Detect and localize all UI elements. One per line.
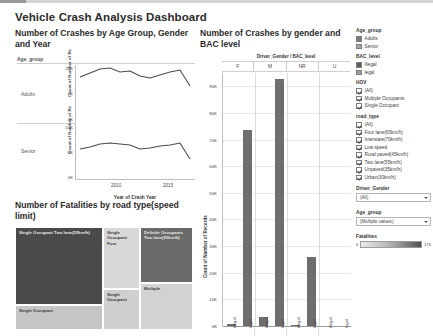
bar-chart-column-header-title: Driver_Gender / BAC_level bbox=[222, 54, 350, 59]
line-chart-plot-senior[interactable] bbox=[75, 123, 195, 180]
line-chart-facet-header: Age_group bbox=[17, 56, 43, 62]
filter-item-label: Rural paved(45km/h) bbox=[365, 152, 409, 157]
bar-chart-column-headers: F M NR U bbox=[222, 61, 350, 72]
filter-item-label: Low speed bbox=[365, 145, 388, 150]
fatalities-max-label: 176 bbox=[424, 242, 431, 247]
filter-road-type-title: road_type bbox=[356, 114, 431, 119]
legend-item-adults[interactable]: Adults bbox=[356, 35, 431, 43]
line-chart-ytick-senior-mid: 0K bbox=[68, 150, 73, 155]
bar-chart-group-separator bbox=[319, 73, 320, 326]
legend-item-label: Adults bbox=[365, 36, 378, 41]
checkbox-icon[interactable] bbox=[356, 103, 362, 109]
line-chart-plot-adults[interactable] bbox=[75, 65, 195, 122]
bar-chart-xaxis-group-separator bbox=[286, 328, 287, 336]
checkbox-icon[interactable] bbox=[356, 175, 362, 181]
filter-item-label: Single Occupant bbox=[365, 103, 399, 108]
legend-item-senior[interactable]: Senior bbox=[356, 43, 431, 51]
filter-age-group-select: Age_group (Multiple values) bbox=[356, 210, 431, 226]
treemap-cell[interactable]: Multiple bbox=[140, 283, 193, 330]
filter-driver-gender-title: Driver_Gender bbox=[356, 186, 431, 191]
tab-stub[interactable] bbox=[0, 0, 26, 3]
bar-chart-panel: Number of Crashes by gender and BAC leve… bbox=[200, 28, 352, 333]
bar-chart-group-separator bbox=[255, 73, 256, 326]
driver-gender-dropdown[interactable]: (All) bbox=[356, 193, 431, 202]
line-chart-ytick-adults-20k: 20K bbox=[65, 66, 73, 71]
chevron-down-icon[interactable] bbox=[424, 197, 428, 199]
filter-road-type-item-four-lane[interactable]: Four lane(65km/h) bbox=[356, 129, 431, 137]
treemap-cell[interactable]: Single Occupant Four bbox=[103, 227, 140, 289]
filter-road-type-item-urban[interactable]: Urban(30km/h) bbox=[356, 174, 431, 182]
filter-road-type-item-rural-paved[interactable]: Rural paved(45km/h) bbox=[356, 151, 431, 159]
bar-chart-ytick: 40K bbox=[200, 217, 217, 222]
line-chart-title: Number of Crashes by Age Group, Gender a… bbox=[15, 28, 195, 50]
bar-chart-group-header-nr: NR bbox=[287, 62, 319, 71]
dashboard-root: Vehicle Crash Analysis Dashboard Number … bbox=[0, 0, 433, 336]
checkbox-icon[interactable] bbox=[356, 152, 362, 158]
checkbox-icon[interactable] bbox=[356, 88, 362, 94]
gradient-ramp-icon bbox=[360, 241, 422, 248]
filter-fatalities-legend: Fatalities 5 176 bbox=[356, 234, 431, 248]
checkbox-icon[interactable] bbox=[356, 130, 362, 136]
treemap-canvas: Single Occupant Two lane(55km/h) Single … bbox=[15, 227, 193, 330]
color-swatch-icon bbox=[356, 62, 362, 68]
bar-chart-ytick: 70K bbox=[200, 137, 217, 142]
filter-road-type-item-two-lane[interactable]: Two lane(55km/h) bbox=[356, 159, 431, 167]
age-group-dropdown[interactable]: (Multiple values) bbox=[356, 217, 431, 226]
bar-chart-group-header-m: M bbox=[254, 62, 286, 71]
bar-chart-bar[interactable] bbox=[307, 257, 316, 326]
treemap-cell[interactable]: Single Occupant Two lane(55km/h) bbox=[15, 227, 103, 305]
bar-chart-bar[interactable] bbox=[275, 79, 284, 326]
checkbox-icon[interactable] bbox=[356, 137, 362, 143]
treemap-cell[interactable]: Single Occupant bbox=[103, 289, 140, 330]
filter-item-label: (All) bbox=[365, 122, 373, 127]
driver-gender-value: (All) bbox=[360, 195, 368, 200]
checkbox-icon[interactable] bbox=[356, 96, 362, 102]
filter-road-type-item-unpaved[interactable]: Unpaved(35km/h) bbox=[356, 166, 431, 174]
chevron-down-icon[interactable] bbox=[424, 221, 428, 223]
filter-hov-item-multiple-occupants[interactable]: Multiple Occupants bbox=[356, 95, 431, 103]
filter-hov-item-all[interactable]: (All) bbox=[356, 87, 431, 95]
filter-road-type-item-low-speed[interactable]: Low speed bbox=[356, 144, 431, 152]
checkbox-icon[interactable] bbox=[356, 122, 362, 128]
checkbox-icon[interactable] bbox=[356, 145, 362, 151]
bar-chart-ytick: 0K bbox=[200, 324, 217, 329]
bar-chart-xaxis-group-separator bbox=[318, 328, 319, 336]
bar-chart-xtick: illegal bbox=[264, 317, 269, 328]
filter-item-label: Two lane(55km/h) bbox=[365, 160, 402, 165]
line-chart-xticks: 2010 2015 bbox=[75, 183, 195, 191]
legend-item-illegal[interactable]: illegal bbox=[356, 61, 431, 69]
checkbox-icon[interactable] bbox=[356, 160, 362, 166]
bar-chart-xtick: illegal bbox=[232, 317, 237, 328]
fatalities-min-label: 5 bbox=[356, 242, 358, 247]
treemap-cell[interactable]: Single Occupant bbox=[15, 305, 103, 330]
bar-chart-group-header-f: F bbox=[222, 62, 254, 71]
bar-chart-ytick: 60K bbox=[200, 164, 217, 169]
filter-fatalities-title: Fatalities bbox=[356, 234, 431, 239]
bar-chart-xtick: legal bbox=[248, 319, 253, 328]
checkbox-icon[interactable] bbox=[356, 167, 362, 173]
legend-item-label: illegal bbox=[365, 62, 377, 67]
bar-chart-xaxis-group-separator bbox=[254, 328, 255, 336]
filter-item-label: Multiple Occupants bbox=[365, 96, 405, 101]
filter-hov-item-single-occupant[interactable]: Single Occupant bbox=[356, 102, 431, 110]
filter-road-type-item-interstate[interactable]: Interstate(70km/h) bbox=[356, 136, 431, 144]
line-chart-ytick-senior-10k: 10K bbox=[65, 125, 73, 130]
line-chart-header-rule bbox=[17, 63, 195, 64]
filter-panel: Age_group Adults Senior BAC_level illega… bbox=[356, 28, 431, 328]
treemap-title: Number of Fatalities by road type(speed … bbox=[15, 200, 195, 222]
bar-chart-xtick: legal bbox=[312, 319, 317, 328]
bar-chart-title: Number of Crashes by gender and BAC leve… bbox=[200, 28, 350, 50]
filter-road-type-item-all[interactable]: (All) bbox=[356, 121, 431, 129]
treemap-cell[interactable]: Definite Occupants Two lane(55km/h) bbox=[140, 227, 193, 283]
legend-item-legal[interactable]: legal bbox=[356, 69, 431, 77]
treemap-cell-label: Single Occupant bbox=[19, 308, 100, 313]
line-chart-panel: Number of Crashes by Age Group, Gender a… bbox=[15, 28, 197, 196]
filter-item-label: Unpaved(35km/h) bbox=[365, 167, 402, 172]
line-chart-row-label-adults: Adults bbox=[21, 91, 35, 97]
bar-chart-bar[interactable] bbox=[243, 130, 252, 326]
treemap-cell-label: Single Occupant Four bbox=[107, 230, 137, 246]
filter-hov-title: HOV bbox=[356, 80, 431, 85]
fatalities-gradient-legend[interactable]: 5 176 bbox=[356, 241, 431, 248]
line-chart-svg-senior bbox=[76, 123, 196, 180]
bar-chart-plot[interactable] bbox=[222, 73, 350, 326]
